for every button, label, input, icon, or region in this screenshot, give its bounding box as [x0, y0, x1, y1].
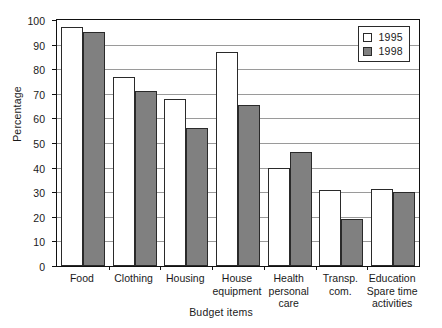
bar-1998-education-spare-time-activities — [393, 192, 415, 266]
y-axis-tick-label: 50 — [15, 138, 45, 150]
y-axis-tick-label: 40 — [15, 163, 45, 175]
x-axis-label: House equipment — [211, 272, 263, 297]
bar-1998-transp.-com. — [341, 219, 363, 266]
legend-item-1998: 1998 — [363, 44, 403, 58]
bar-1998-health-personal-care — [290, 152, 312, 266]
x-axis-label: Clothing — [108, 272, 160, 285]
bar-1998-clothing — [135, 91, 157, 266]
bar-chart: Percentage 0102030405060708090100 1995 1… — [0, 0, 442, 328]
y-axis-tick-label: 90 — [15, 40, 45, 52]
x-axis-tick — [109, 266, 110, 270]
bar-1998-food — [83, 32, 105, 266]
x-axis-tick — [316, 266, 317, 270]
x-axis-label: Housing — [159, 272, 211, 285]
legend-label-1995: 1995 — [378, 31, 403, 43]
x-axis-label: Health personal care — [263, 272, 315, 310]
y-axis-tick-label: 0 — [15, 261, 45, 273]
legend-item-1995: 1995 — [363, 30, 403, 44]
x-axis-tick — [367, 266, 368, 270]
bar-1995-food — [61, 27, 83, 266]
white-square-icon — [363, 33, 372, 42]
bar-1998-housing — [186, 128, 208, 266]
x-axis-tick — [160, 266, 161, 270]
bar-1995-transp.-com. — [319, 190, 341, 266]
x-axis-tick — [212, 266, 213, 270]
y-axis-tick-label: 30 — [15, 187, 45, 199]
legend: 1995 1998 — [358, 26, 410, 62]
y-axis-tick: 0 — [52, 266, 57, 267]
x-axis-tick — [264, 266, 265, 270]
x-axis-label: Transp. com. — [315, 272, 367, 297]
x-axis-label: Food — [56, 272, 108, 285]
bar-1995-health-personal-care — [268, 168, 290, 266]
x-axis-title: Budget items — [0, 306, 442, 318]
y-axis-tick-label: 70 — [15, 89, 45, 101]
bar-1998-house-equipment — [238, 105, 260, 266]
bar-1995-housing — [164, 99, 186, 266]
y-axis-tick-label: 20 — [15, 212, 45, 224]
bar-1995-education-spare-time-activities — [371, 189, 393, 266]
y-axis-tick-label: 60 — [15, 113, 45, 125]
gray-square-icon — [363, 47, 372, 56]
bar-1995-house-equipment — [216, 52, 238, 266]
bar-1995-clothing — [113, 77, 135, 266]
x-axis-label: Education Spare time activities — [366, 272, 418, 310]
y-axis-tick-label: 80 — [15, 64, 45, 76]
legend-label-1998: 1998 — [378, 45, 403, 57]
y-axis-tick-label: 10 — [15, 236, 45, 248]
y-axis-tick-label: 100 — [15, 15, 45, 27]
plot-area: 0102030405060708090100 1995 1998 — [56, 19, 420, 267]
